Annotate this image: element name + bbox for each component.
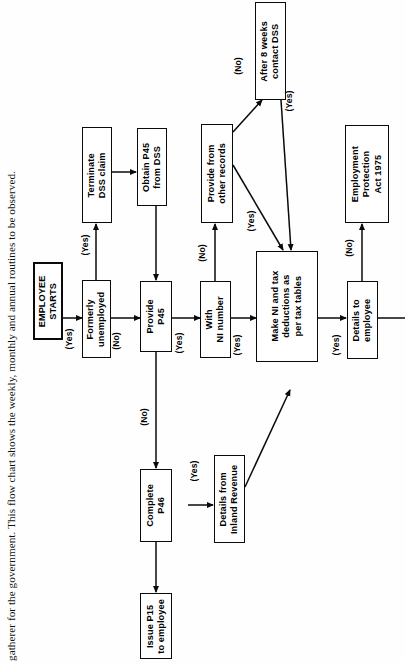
edge-label-yes-other-records: (Yes): [246, 210, 256, 231]
node-label: Complete P46: [145, 484, 168, 527]
edge-label-yes-make-deductions: (Yes): [331, 334, 341, 355]
node-formerly-unemployed[interactable]: Formerly unemployed: [82, 280, 111, 358]
node-label: Make NI and tax deductions as per tax ta…: [270, 271, 304, 342]
edge-label-yes-employee-starts: (Yes): [64, 328, 74, 349]
node-details-to-employee[interactable]: Details to employee: [347, 281, 378, 359]
node-terminate-dss-claim[interactable]: Terminate DSS claim: [82, 127, 112, 223]
node-with-ni-number[interactable]: With NI number: [200, 281, 231, 358]
flowchart: EMPLOYEE STARTS Formerly unemployed Term…: [0, 0, 405, 662]
node-label: After 8 weeks contact DSS: [259, 21, 282, 82]
edge-label-no-other-records: (No): [233, 57, 243, 75]
node-label: EMPLOYEE STARTS: [37, 275, 60, 327]
node-obtain-p45-from-dss[interactable]: Obtain P45 from DSS: [137, 128, 167, 206]
node-label: Obtain P45 from DSS: [141, 143, 164, 192]
node-make-deductions[interactable]: Make NI and tax deductions as per tax ta…: [256, 251, 318, 362]
node-label: Provide from other records: [206, 143, 229, 204]
node-after-8-weeks-contact-dss[interactable]: After 8 weeks contact DSS: [255, 2, 286, 100]
node-provide-from-other-records[interactable]: Provide from other records: [201, 124, 233, 223]
edge-label-no-details-to-employee: (No): [344, 239, 354, 257]
node-employee-starts[interactable]: EMPLOYEE STARTS: [33, 262, 63, 340]
node-label: Formerly unemployed: [85, 291, 108, 346]
edge-label-no-with-ni-number: (No): [197, 244, 207, 262]
edge-label-no-provide-p45: (No): [139, 408, 149, 426]
edge-label-no-formerly-unemployed: (No): [111, 332, 121, 350]
edge-label-yes-complete-p46: (Yes): [189, 460, 199, 481]
node-label: Issue P15 to employee: [145, 599, 168, 654]
edge-label-yes-formerly-unemployed: (Yes): [80, 234, 90, 255]
node-label: Employment Protection Act 1975: [350, 146, 384, 202]
scanned-page: gatherer for the government. This flow c…: [0, 0, 405, 662]
node-details-inland-revenue[interactable]: Details from Inland Revenue: [214, 455, 245, 543]
node-complete-p46[interactable]: Complete P46: [140, 469, 172, 542]
edge-label-yes-with-ni-number: (Yes): [232, 334, 242, 355]
node-issue-p15[interactable]: Issue P15 to employee: [140, 593, 172, 659]
edge-label-yes-provide-p45: (Yes): [174, 332, 184, 353]
node-label: Details to employee: [351, 298, 374, 341]
node-label: Details from Inland Revenue: [218, 464, 241, 533]
node-provide-p45[interactable]: Provide P45: [140, 281, 172, 352]
edge-label-yes-after-8-weeks: (Yes): [284, 90, 294, 111]
node-employment-protection-act[interactable]: Employment Protection Act 1975: [345, 125, 389, 223]
node-label: Terminate DSS claim: [86, 152, 109, 198]
node-label: Provide P45: [145, 299, 168, 333]
node-label: With NI number: [204, 296, 227, 342]
